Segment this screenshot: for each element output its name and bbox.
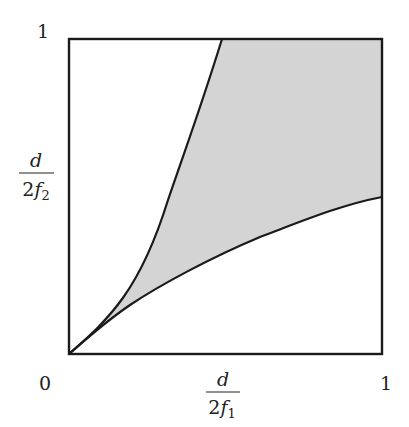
- origin-tick: 0: [39, 372, 51, 394]
- y-label-numerator: d: [30, 149, 42, 171]
- x-max-tick: 1: [380, 372, 392, 394]
- y-label-denominator: 2f2: [22, 178, 49, 203]
- y-axis-label: d 2f2: [19, 149, 54, 203]
- x-label-numerator: d: [217, 368, 229, 390]
- y-max-tick: 1: [37, 20, 49, 42]
- x-axis-label: d 2f1: [206, 368, 240, 421]
- x-label-denominator: 2f1: [208, 396, 235, 421]
- region-diagram: 1 0 1 d 2f2 d 2f1: [0, 0, 409, 427]
